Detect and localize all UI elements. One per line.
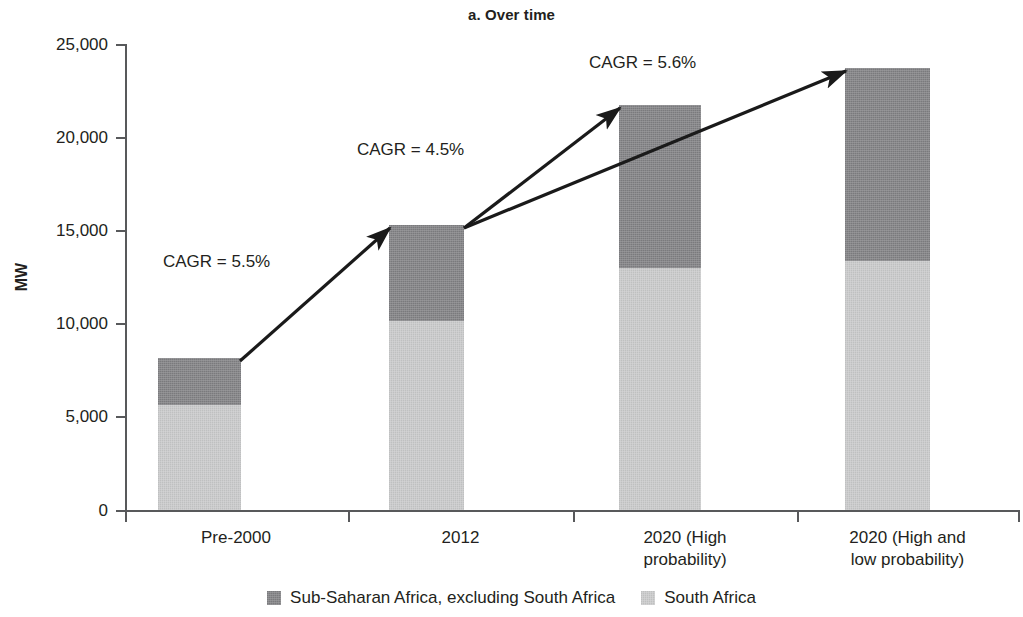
y-tick-label-25000: 25,000 xyxy=(0,35,108,55)
bar-segment-sub-saharan[interactable] xyxy=(158,358,241,405)
swatch-texture xyxy=(267,591,281,605)
x-tick-mark-0 xyxy=(125,511,127,522)
bar-segment-sub-saharan[interactable] xyxy=(845,68,930,261)
bar-pre-2000[interactable] xyxy=(158,358,241,510)
x-tick-mark-3 xyxy=(797,511,799,522)
bar-segment-south-africa[interactable] xyxy=(619,268,701,510)
x-axis-label-line: 2012 xyxy=(348,527,573,549)
x-axis-label-2020-high-and-low-probability: 2020 (High and low probability) xyxy=(797,527,1018,571)
bar-segment-south-africa[interactable] xyxy=(845,261,930,510)
y-axis-title: MW xyxy=(13,247,31,307)
chart-figure: a. Over time MW 25,000 20,000 15,000 10,… xyxy=(0,0,1023,617)
y-tick-label-0: 0 xyxy=(0,501,108,521)
cagr-annotation-3: CAGR = 5.6% xyxy=(589,53,696,73)
legend-label: South Africa xyxy=(664,588,756,608)
x-axis-label-line: 2020 (High and xyxy=(797,527,1018,549)
y-axis-line xyxy=(125,44,127,511)
x-axis-label-2012: 2012 xyxy=(348,527,573,549)
bar-segment-south-africa[interactable] xyxy=(389,321,464,510)
x-axis-label-pre-2000: Pre-2000 xyxy=(124,527,348,549)
bar-texture xyxy=(845,68,930,261)
legend-item-south-africa[interactable]: South Africa xyxy=(641,588,756,608)
bar-segment-sub-saharan[interactable] xyxy=(619,105,701,268)
cagr-annotation-1: CAGR = 5.5% xyxy=(163,252,270,272)
legend-label: Sub-Saharan Africa, excluding South Afri… xyxy=(290,588,615,608)
legend-swatch-icon xyxy=(641,591,655,605)
x-axis-label-line: low probability) xyxy=(797,549,1018,571)
x-tick-mark-1 xyxy=(348,511,350,522)
bar-texture xyxy=(619,105,701,268)
cagr-annotation-2: CAGR = 4.5% xyxy=(357,140,464,160)
bar-2020-high-probability[interactable] xyxy=(619,105,701,510)
x-tick-mark-4 xyxy=(1018,511,1020,522)
bar-texture xyxy=(389,225,464,321)
legend-swatch-icon xyxy=(267,591,281,605)
bar-texture xyxy=(158,358,241,405)
y-tick-label-10000: 10,000 xyxy=(0,314,108,334)
swatch-texture xyxy=(641,591,655,605)
x-axis-label-line: probability) xyxy=(573,549,797,571)
bar-2012[interactable] xyxy=(389,225,464,510)
bar-texture xyxy=(845,261,930,510)
x-tick-mark-2 xyxy=(573,511,575,522)
x-axis-label-line: 2020 (High xyxy=(573,527,797,549)
y-tick-label-20000: 20,000 xyxy=(0,128,108,148)
x-axis-label-line: Pre-2000 xyxy=(124,527,348,549)
x-axis-label-2020-high-probability: 2020 (High probability) xyxy=(573,527,797,571)
chart-title: a. Over time xyxy=(0,6,1023,23)
bar-segment-sub-saharan[interactable] xyxy=(389,225,464,321)
legend-item-sub-saharan-africa[interactable]: Sub-Saharan Africa, excluding South Afri… xyxy=(267,588,615,608)
bar-texture xyxy=(619,268,701,510)
y-tick-label-15000: 15,000 xyxy=(0,221,108,241)
arrow-2012-to-2020-high xyxy=(464,108,620,228)
bar-texture xyxy=(158,405,241,510)
bar-texture xyxy=(389,321,464,510)
bar-2020-high-and-low-probability[interactable] xyxy=(845,68,930,510)
bar-segment-south-africa[interactable] xyxy=(158,405,241,510)
arrow-pre2000-to-2012 xyxy=(240,228,390,361)
chart-legend: Sub-Saharan Africa, excluding South Afri… xyxy=(0,588,1023,608)
y-tick-label-5000: 5,000 xyxy=(0,407,108,427)
